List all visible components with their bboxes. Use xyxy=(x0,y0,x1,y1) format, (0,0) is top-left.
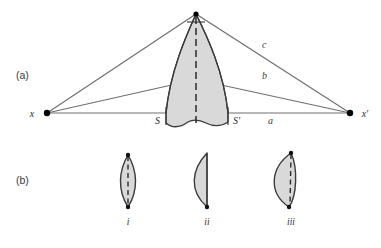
profile-iii-top-dot xyxy=(289,151,293,155)
profile-ii-bottom-dot xyxy=(205,205,209,209)
profile-i-bottom-dot xyxy=(126,205,130,209)
point-x-prime-label: x′ xyxy=(361,108,369,119)
panel-a-group: (a) x x′ c b a S S′ xyxy=(16,11,369,126)
ray-a-label: a xyxy=(268,115,273,126)
ray-b-label: b xyxy=(262,70,267,81)
point-x-dot xyxy=(44,110,50,116)
profile-iii-group: iii xyxy=(274,151,295,227)
profile-ii-group: ii xyxy=(194,153,210,227)
section-label-S: S xyxy=(155,115,160,126)
profile-iii-bottom-dot xyxy=(287,205,291,209)
ray-c-label: c xyxy=(262,39,267,50)
panel-a-label: (a) xyxy=(16,69,29,81)
profile-ii-shape xyxy=(194,153,207,207)
profile-i-top-dot xyxy=(126,153,130,157)
profile-iii-label: iii xyxy=(287,217,295,227)
diagram-svg: (a) x x′ c b a S S′ (b) i xyxy=(0,0,381,248)
profile-iii-shape xyxy=(274,153,295,207)
figure-canvas: (a) x x′ c b a S S′ (b) i xyxy=(0,0,381,248)
section-label-S-prime: S′ xyxy=(233,115,241,126)
panel-b-label: (b) xyxy=(16,174,29,186)
point-apex-dot xyxy=(193,11,198,16)
panel-b-group: (b) i ii iii xyxy=(16,151,296,227)
point-x-label: x xyxy=(29,108,35,119)
point-x-prime-dot xyxy=(347,110,353,116)
profile-i-label: i xyxy=(127,217,130,227)
profile-ii-label: ii xyxy=(204,217,210,227)
profile-i-group: i xyxy=(120,153,135,227)
